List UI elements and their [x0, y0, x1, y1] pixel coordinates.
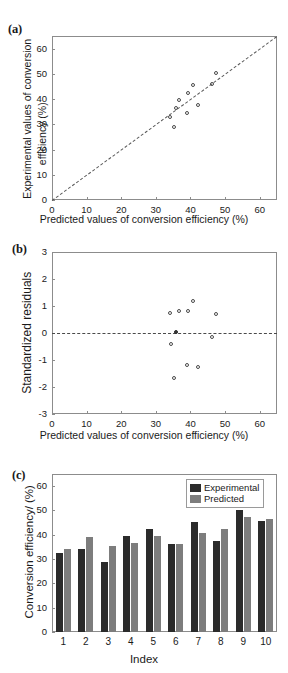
panel-b-xtick-mark: [121, 411, 122, 414]
panel-a-xtick-label: 50: [215, 204, 235, 215]
bar-predicted-8: [221, 529, 228, 632]
panel-a-xtick-mark: [156, 197, 157, 200]
panel-a-ytick-label: 30: [25, 118, 47, 129]
panel-a-ytick-label: 10: [25, 169, 47, 180]
panel-c-ytick-label: 40: [25, 529, 47, 540]
panel-b-xtick-label: 0: [42, 418, 62, 429]
panel-c-ytick-mark: [52, 632, 55, 633]
panel-b-ytick-label: 1: [25, 300, 47, 311]
panel-c-xtick-label: 10: [256, 636, 276, 647]
panel-b: (b) Standardized residuals Predicted val…: [0, 228, 288, 450]
panel-c-ytick-mark: [52, 559, 55, 560]
panel-a-ytick-mark: [52, 74, 55, 75]
bar-predicted-6: [176, 544, 183, 632]
panel-b-xtick-mark: [260, 411, 261, 414]
panel-c-ytick-mark: [52, 583, 55, 584]
panel-a-ytick-label: 40: [25, 93, 47, 104]
bar-predicted-9: [244, 517, 251, 632]
zero-reference-line: [52, 333, 277, 334]
panel-a-xtick-label: 20: [111, 204, 131, 215]
bar-predicted-7: [199, 533, 206, 632]
chart-legend: ExperimentalPredicted: [186, 479, 264, 508]
panel-a-ytick-label: 20: [25, 144, 47, 155]
panel-a-ytick-mark: [52, 150, 55, 151]
panel-c-ytick-mark: [52, 486, 55, 487]
panel-a-ytick-mark: [52, 175, 55, 176]
panel-a-xtick-mark: [190, 197, 191, 200]
bar-experimental-8: [213, 541, 220, 632]
panel-c-ytick-label: 50: [25, 504, 47, 515]
panel-b-ytick-label: -1: [25, 354, 47, 365]
panel-c-ytick-mark: [52, 535, 55, 536]
panel-b-xtick-label: 50: [215, 418, 235, 429]
panel-b-xtick-label: 30: [146, 418, 166, 429]
panel-b-xlabel: Predicted values of conversion efficienc…: [0, 429, 288, 441]
panel-b-ytick-mark: [52, 387, 55, 388]
legend-swatch: [190, 484, 201, 492]
panel-b-ytick-mark: [52, 279, 55, 280]
panel-b-ytick-mark: [52, 360, 55, 361]
bar-experimental-2: [78, 549, 85, 632]
panel-b-ytick-label: 0: [25, 327, 47, 338]
bar-predicted-1: [64, 549, 71, 632]
bar-experimental-4: [123, 536, 130, 632]
scatter-point: [196, 103, 200, 107]
residual-point: [168, 311, 172, 315]
legend-swatch: [190, 495, 201, 503]
panel-c-ytick-label: 30: [25, 553, 47, 564]
panel-b-ytick-label: 3: [25, 246, 47, 257]
bar-experimental-9: [236, 510, 243, 632]
bar-predicted-3: [109, 546, 116, 632]
bar-experimental-5: [146, 529, 153, 632]
panel-a-xtick-label: 60: [250, 204, 270, 215]
bar-experimental-6: [168, 544, 175, 632]
bar-experimental-3: [101, 562, 108, 632]
panel-c-xtick-label: 1: [53, 636, 73, 647]
panel-b-ytick-mark: [52, 252, 55, 253]
panel-c-ytick-label: 60: [25, 480, 47, 491]
panel-a-ytick-label: 50: [25, 68, 47, 79]
panel-c-xlabel: Index: [0, 653, 288, 665]
legend-item: Predicted: [190, 493, 259, 504]
scatter-point: [177, 98, 181, 102]
panel-b-xtick-mark: [87, 411, 88, 414]
bar-experimental-10: [258, 521, 265, 632]
bar-experimental-1: [56, 553, 63, 632]
panel-c-xtick-label: 7: [188, 636, 208, 647]
panel-a-ytick-label: 60: [25, 43, 47, 54]
panel-b-xtick-label: 10: [77, 418, 97, 429]
panel-c-ytick-label: 20: [25, 577, 47, 588]
panel-a-xtick-mark: [121, 197, 122, 200]
bar-predicted-4: [131, 543, 138, 632]
residual-point: [185, 363, 189, 367]
panel-a-ytick-mark: [52, 124, 55, 125]
panel-b-ytick-mark: [52, 414, 55, 415]
panel-a-tag: (a): [8, 22, 22, 37]
panel-a-xtick-mark: [260, 197, 261, 200]
scatter-point: [214, 71, 218, 75]
bar-predicted-5: [154, 536, 161, 632]
panel-c-xtick-label: 4: [121, 636, 141, 647]
bar-predicted-10: [266, 519, 273, 632]
legend-label: Experimental: [204, 483, 259, 493]
panel-a-xtick-mark: [87, 197, 88, 200]
panel-c-ytick-mark: [52, 510, 55, 511]
panel-a-ytick-mark: [52, 99, 55, 100]
panel-c-xtick-label: 5: [143, 636, 163, 647]
panel-b-xtick-mark: [156, 411, 157, 414]
panel-b-xtick-label: 60: [250, 418, 270, 429]
scatter-point: [185, 111, 189, 115]
bar-predicted-2: [86, 537, 93, 632]
panel-c-tag: (c): [12, 468, 25, 483]
panel-b-ytick-label: -2: [25, 381, 47, 392]
panel-a: (a) Experimental values of conversion ef…: [0, 0, 288, 228]
residual-point: [172, 376, 176, 380]
panel-a-xtick-label: 10: [77, 204, 97, 215]
panel-c: (c) Conversion efficiency/ (%) Index Exp…: [0, 450, 288, 673]
panel-a-xtick-mark: [225, 197, 226, 200]
legend-item: Experimental: [190, 482, 259, 493]
panel-c-xtick-label: 8: [211, 636, 231, 647]
panel-b-xtick-mark: [225, 411, 226, 414]
panel-c-xtick-label: 3: [98, 636, 118, 647]
panel-b-ytick-mark: [52, 306, 55, 307]
